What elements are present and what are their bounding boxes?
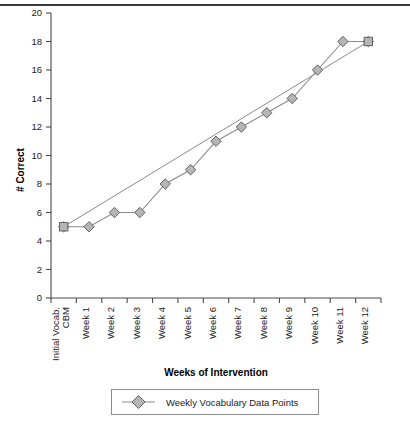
data-point-diamond [109,207,119,217]
y-tick-label: 18 [31,36,42,47]
x-tick-label: Week 11 [334,307,345,344]
x-tick-label: Week 8 [258,307,269,339]
x-tick-label: Week 9 [283,307,294,339]
x-tick-label: Week 5 [182,307,193,339]
data-point-diamond [84,222,94,232]
x-tick-label: Week 3 [131,307,142,339]
data-point-diamond [262,108,272,118]
aimline-endpoint-square [59,223,67,231]
x-tick-label: Week 4 [156,307,167,339]
x-tick-label: Week 7 [232,307,243,339]
y-axis-ticks: 02468101214161820 [31,7,51,303]
aimline-endpoint-square [364,37,372,45]
x-tick-label: Week 12 [359,307,370,344]
y-axis-title: # Correct [15,147,26,192]
chart-legend: Weekly Vocabulary Data Points [112,390,319,415]
y-tick-label: 14 [31,93,42,104]
y-tick-label: 4 [37,235,42,246]
y-tick-label: 10 [31,150,42,161]
x-tick-label: Week 1 [80,307,91,339]
x-tick-label: Week 2 [105,307,116,339]
x-tick-label: Week 10 [309,307,320,344]
x-axis-ticks [51,298,381,303]
data-point-diamond [236,122,246,132]
chart-figure: # Correct 02468101214161820 Initial Voca… [0,0,410,424]
y-axis-title-group: # Correct [15,147,26,192]
x-tick-label: CBM [60,307,71,328]
y-tick-label: 0 [37,292,42,303]
line-chart-svg: # Correct 02468101214161820 Initial Voca… [0,0,410,424]
x-axis-tick-labels: Initial Vocab.CBMWeek 1Week 2Week 3Week … [50,307,371,361]
y-tick-label: 12 [31,121,42,132]
y-tick-label: 2 [37,264,42,275]
axis-lines [51,13,381,298]
x-axis-title: Weeks of Intervention [164,367,268,378]
y-tick-label: 8 [37,178,42,189]
legend-entry-label: Weekly Vocabulary Data Points [166,397,299,408]
plot-container: # Correct 02468101214161820 Initial Voca… [0,0,410,424]
y-tick-label: 6 [37,207,42,218]
y-tick-label: 16 [31,64,42,75]
y-tick-label: 20 [31,7,42,18]
x-tick-label: Week 6 [207,307,218,339]
